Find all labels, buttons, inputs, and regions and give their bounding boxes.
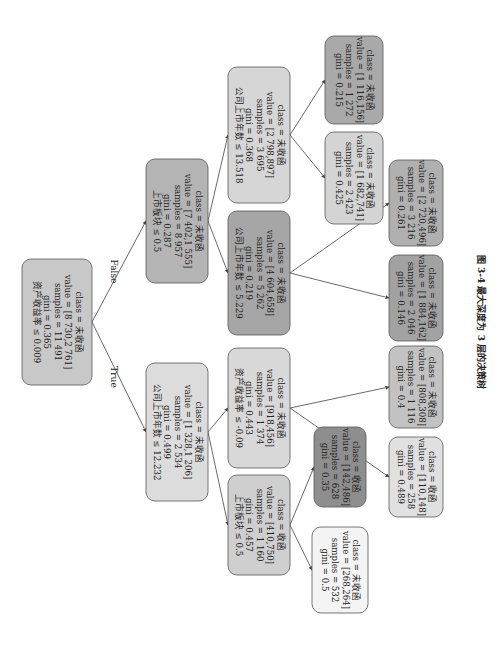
figure-caption: 图 3-4 最大深度为 3 层的决策树 [476, 255, 487, 389]
node-value: value = [1 682,741] [355, 134, 365, 221]
node-gini: gini = 0.457 [244, 498, 254, 552]
node-value: value = [4 604,658] [265, 229, 275, 316]
leaf-node-leaf_8: gini = 0.5samples = 532value = [268,264]… [312, 527, 368, 613]
node-class: class = 未收函 [276, 377, 287, 438]
edge-label-true: True [109, 366, 119, 387]
leaf-node-leaf_1: gini = 0.215samples = 1 272value = [1 11… [325, 36, 383, 124]
tree-edge [290, 80, 325, 135]
node-gini: gini = 0.219 [244, 246, 254, 300]
nodes-layer: 资产收益率 ≤ 0.009gini = 0.365samples = 11 49… [22, 36, 443, 613]
node-gini: gini = 0.261 [396, 176, 406, 230]
node-value: value = [110,148] [417, 437, 427, 516]
node-samples: samples = 628 [330, 435, 340, 500]
node-gini: gini = 0.443 [244, 381, 254, 435]
split-node-root: 资产收益率 ≤ 0.009gini = 0.365samples = 11 49… [22, 259, 92, 385]
leaf-node-leaf_2: gini = 0.425samples = 2 423value = [1 68… [325, 132, 383, 224]
node-value: value = [7 402,1 555] [183, 173, 193, 269]
node-samples: samples = 532 [330, 538, 340, 603]
tree-edge [290, 467, 314, 525]
leaf-node-leaf_5: gini = 0.4samples = 1 116value = [808,30… [389, 346, 443, 428]
node-condition: 资产收益率 ≤ -0.09 [234, 368, 245, 448]
node-class: class = 未收函 [427, 172, 438, 233]
tree-edge [290, 135, 325, 178]
node-value: value = [1 328,1 206] [183, 384, 193, 480]
node-class: class = 未收函 [194, 401, 205, 462]
decision-tree-diagram: FalseTrue 资产收益率 ≤ 0.009gini = 0.365sampl… [0, 0, 495, 646]
split-node-n1_false: 上市板块 ≤ 0.5gini = 0.287samples = 8 957val… [146, 159, 208, 283]
leaf-node-leaf_4: gini = 0.146samples = 2 046value = [1 88… [389, 254, 443, 341]
node-samples: samples = 11 491 [53, 283, 63, 361]
node-samples: samples = 258 [406, 445, 416, 510]
node-samples: samples = 1 374 [255, 372, 265, 445]
leaf-node-leaf_6: gini = 0.489samples = 258value = [110,14… [389, 437, 443, 517]
tree-edge [208, 221, 228, 273]
split-node-n2_c: 资产收益率 ≤ -0.09gini = 0.443samples = 1 374… [228, 348, 290, 468]
split-node-n2_a: 公司上市年数 ≤ 13.518gini = 0.368samples = 3 6… [228, 67, 290, 203]
leaf-node-leaf_7: gini = 0.35samples = 628value = [142,486… [314, 427, 366, 507]
node-gini: gini = 0.499 [162, 405, 172, 459]
split-node-n2_d: 上市板块 ≤ 0.5gini = 0.457samples = 1 160val… [228, 475, 290, 575]
node-value: value = [1 884,162] [417, 254, 427, 341]
node-gini: gini = 0.368 [244, 108, 254, 162]
node-value: value = [142,486] [341, 427, 351, 506]
node-class: class = 未收函 [427, 356, 438, 417]
node-samples: samples = 2 534 [173, 396, 183, 469]
node-class: class = 收函 [427, 451, 438, 503]
node-samples: samples = 3 695 [255, 99, 265, 172]
node-samples: samples = 2 423 [344, 142, 354, 215]
tree-edge [290, 525, 312, 570]
node-samples: samples = 1 272 [344, 44, 354, 117]
tree-edge [290, 387, 389, 408]
node-gini: gini = 0.287 [162, 194, 172, 248]
split-node-n2_b: 公司上市年数 ≤ 5.229gini = 0.219samples = 5 26… [228, 211, 290, 335]
node-samples: samples = 3 216 [406, 167, 416, 240]
node-class: class = 未收函 [351, 539, 362, 600]
node-gini: gini = 0.35 [320, 443, 330, 491]
node-value: value = [410,750] [265, 485, 275, 564]
tree-edge [208, 432, 228, 525]
node-samples: samples = 1 160 [255, 489, 265, 562]
node-class: class = 未收函 [276, 242, 287, 303]
node-class: class = 未收函 [74, 291, 85, 352]
edge-label-false: False [109, 260, 119, 284]
decision-tree-figure: FalseTrue 资产收益率 ≤ 0.009gini = 0.365sampl… [0, 0, 495, 646]
node-samples: samples = 2 046 [406, 262, 416, 335]
node-value: value = [1 116,156] [355, 36, 365, 123]
node-samples: samples = 5 262 [255, 237, 265, 310]
node-samples: samples = 8 957 [173, 185, 183, 258]
node-value: value = [2 798,897] [265, 91, 275, 178]
node-class: class = 收函 [351, 441, 362, 493]
split-node-n1_true: 公司上市年数 ≤ 12.232gini = 0.499samples = 2 5… [146, 363, 208, 501]
tree-edge [208, 135, 228, 221]
node-samples: samples = 1 116 [406, 351, 416, 424]
node-value: value = [8 730,2 761] [63, 274, 73, 370]
node-class: class = 未收函 [365, 147, 376, 208]
node-value: value = [808,308] [417, 347, 427, 426]
node-condition: 上市板块 ≤ 0.5 [152, 190, 163, 252]
node-class: class = 收函 [276, 499, 287, 551]
tree-edge [208, 408, 228, 432]
node-value: value = [2 720,496] [417, 159, 427, 246]
node-class: class = 未收函 [276, 104, 287, 165]
node-condition: 资产收益率 ≤ 0.009 [32, 281, 43, 363]
node-gini: gini = 0.489 [396, 450, 406, 504]
node-gini: gini = 0.146 [396, 271, 406, 325]
node-gini: gini = 0.5 [320, 549, 330, 592]
node-value: value = [268,264] [341, 530, 351, 609]
node-condition: 公司上市年数 ≤ 12.232 [152, 384, 163, 481]
node-gini: gini = 0.215 [334, 53, 344, 107]
node-gini: gini = 0.425 [334, 151, 344, 205]
node-class: class = 未收函 [194, 190, 205, 251]
tree-edge [290, 273, 389, 298]
node-class: class = 未收函 [427, 267, 438, 328]
node-class: class = 未收函 [365, 49, 376, 110]
node-gini: gini = 0.365 [42, 295, 52, 349]
node-condition: 上市板块 ≤ 0.5 [234, 494, 245, 556]
leaf-node-leaf_3: gini = 0.261samples = 3 216value = [2 72… [389, 159, 443, 246]
node-value: value = [918,456] [265, 368, 275, 447]
node-condition: 公司上市年数 ≤ 13.518 [234, 87, 245, 184]
node-gini: gini = 0.4 [396, 366, 406, 409]
node-condition: 公司上市年数 ≤ 5.229 [234, 227, 245, 318]
